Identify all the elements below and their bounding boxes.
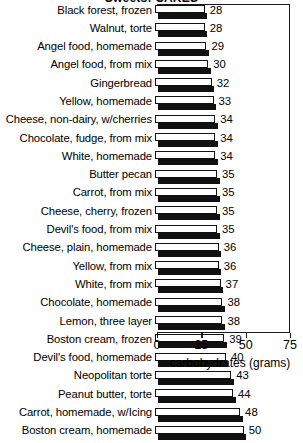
bar-shadow (158, 287, 224, 293)
bar (155, 78, 212, 92)
bar-category-label: Angel food, from mix (0, 58, 155, 71)
bar-face (155, 316, 222, 324)
bar-plot-cell: 35 (155, 205, 303, 223)
bar-value-label: 50 (249, 424, 262, 437)
bar-plot-cell: 28 (155, 22, 303, 40)
bar-plot-cell: 50 (155, 425, 303, 443)
bar-category-label: Chocolate, homemade (0, 296, 155, 309)
bar (155, 279, 221, 293)
bar-category-label: Yellow, from mix (0, 260, 155, 273)
bar-row: Cheese, plain, homemade36 (0, 242, 303, 260)
bar (155, 243, 219, 257)
bar (155, 151, 215, 165)
bar-face (155, 151, 215, 159)
bar-face (155, 133, 215, 141)
bar-shadow (158, 50, 209, 56)
bar-plot-cell: 36 (155, 260, 303, 278)
bar-face (155, 279, 221, 287)
bar-plot-cell: 35 (155, 224, 303, 242)
bar-row: Neopolitan torte43 (0, 370, 303, 388)
bar (155, 316, 222, 330)
x-axis-tick-label: 0 (154, 338, 161, 352)
bar-value-label: 35 (222, 205, 235, 218)
bar-shadow (158, 269, 222, 275)
bar-row: Angel food, homemade29 (0, 41, 303, 59)
bar-category-label: Butter pecan (0, 168, 155, 181)
bar-shadow (158, 159, 218, 165)
bar-value-label: 38 (227, 315, 240, 328)
bar-category-label: Chocolate, fudge, from mix (0, 132, 155, 145)
bar-shadow (158, 324, 225, 330)
bar (155, 426, 244, 440)
bar-face (155, 78, 212, 86)
bar-shadow (158, 434, 247, 440)
bar-shadow (158, 104, 217, 110)
bar (155, 188, 217, 202)
bar-shadow (158, 68, 211, 74)
bar-plot-cell: 39 (155, 333, 303, 351)
bar-shadow (158, 123, 218, 129)
bar-category-label: Boston cream, frozen (0, 333, 155, 346)
bar-value-label: 35 (222, 168, 235, 181)
bar (155, 371, 231, 385)
x-axis-title: carbohydrates (grams) (157, 356, 303, 370)
bar-category-label: Devil's food, from mix (0, 223, 155, 236)
bar-row: Chocolate, fudge, from mix34 (0, 132, 303, 150)
bar-plot-cell: 32 (155, 77, 303, 95)
x-axis-tick-label: 75 (283, 338, 297, 352)
bar-face (155, 243, 219, 251)
bar-shadow (158, 379, 234, 385)
bar-value-label: 34 (220, 113, 233, 126)
bar (155, 225, 217, 239)
bar-plot-cell: 44 (155, 388, 303, 406)
bar-value-label: 36 (224, 260, 237, 273)
bar-shadow (158, 306, 225, 312)
bar-category-label: Black forest, frozen (0, 4, 155, 17)
bar-value-label: 35 (222, 223, 235, 236)
bar-row: Cheese, non-dairy, w/cherries34 (0, 114, 303, 132)
bar-plot-cell: 38 (155, 315, 303, 333)
bar-plot-cell: 34 (155, 114, 303, 132)
bar (155, 261, 219, 275)
bar-category-label: Cheese, plain, homemade (0, 241, 155, 254)
bar-value-label: 30 (213, 58, 226, 71)
bar-category-label: Carrot, from mix (0, 186, 155, 199)
bar-shadow (158, 141, 218, 147)
bar-shadow (158, 196, 220, 202)
bar-category-label: Gingerbread (0, 77, 155, 90)
bar-value-label: 43 (236, 369, 249, 382)
bar-row: Angel food, from mix30 (0, 59, 303, 77)
bar-row: Carrot, from mix35 (0, 187, 303, 205)
bar-value-label: 44 (238, 388, 251, 401)
bar (155, 42, 206, 56)
bar-face (155, 426, 244, 434)
bar-category-label: White, homemade (0, 150, 155, 163)
bar-plot-cell: 35 (155, 169, 303, 187)
bar (155, 334, 224, 348)
bar-row: Butter pecan35 (0, 169, 303, 187)
bar-row: Cheese, cherry, frozen35 (0, 205, 303, 223)
bar-shadow (158, 416, 243, 422)
bar-shadow (158, 31, 208, 37)
bar-face (155, 334, 224, 342)
bar-value-label: 34 (220, 150, 233, 163)
bar-row: Walnut, torte28 (0, 22, 303, 40)
bar (155, 206, 217, 220)
bar-plot-cell: 28 (155, 4, 303, 22)
bar-plot-cell: 33 (155, 95, 303, 113)
bar-row: Gingerbread32 (0, 77, 303, 95)
bar-value-label: 28 (210, 22, 223, 35)
bar-value-label: 37 (226, 278, 239, 291)
bar-face (155, 408, 240, 416)
bar-plot-cell: 35 (155, 187, 303, 205)
bar-row: Black forest, frozen28 (0, 4, 303, 22)
bar-shadow (158, 13, 208, 19)
bar-shadow (158, 397, 236, 403)
bar-plot-cell: 29 (155, 41, 303, 59)
bar-plot-cell: 38 (155, 297, 303, 315)
bar (155, 96, 214, 110)
bar-category-label: Boston cream, homemade (0, 424, 155, 437)
bar-plot-cell: 34 (155, 150, 303, 168)
bar-value-label: 38 (227, 296, 240, 309)
